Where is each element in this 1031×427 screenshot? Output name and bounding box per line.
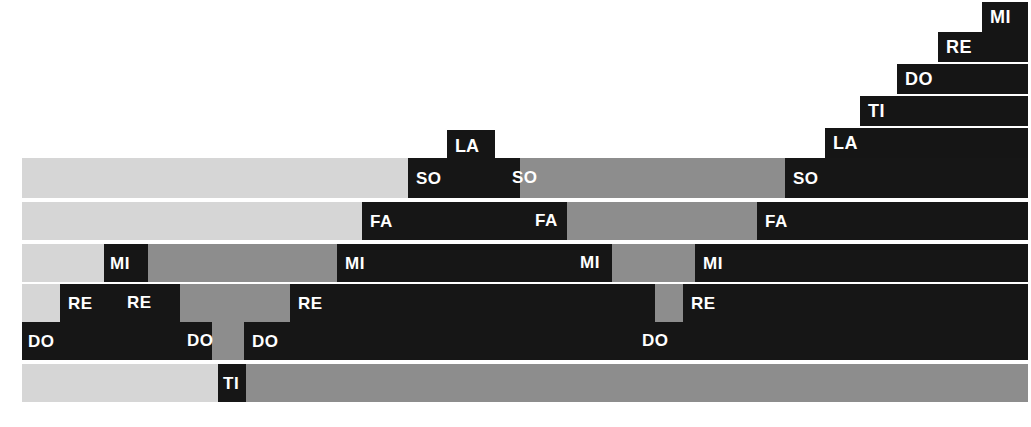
figure-canvas: on-nlt LATIDOREMI SOSOFAFAMIMIMIREREREDO… <box>0 0 1031 427</box>
bar-segment-dark: SO <box>785 158 1028 198</box>
bar-segment-dark: MI <box>104 244 148 282</box>
bar-segment-light <box>22 158 408 198</box>
segment-label: RE <box>127 294 152 311</box>
staircase-step-mi: MI <box>982 2 1028 32</box>
bar-row-re: RERERE <box>22 284 1028 322</box>
bar-segment-light <box>22 284 60 322</box>
segment-label: DO <box>28 333 55 350</box>
bar-segment-dark: FA <box>757 202 1028 240</box>
bar-segment-dark: DO <box>244 322 1028 360</box>
segment-label: FA <box>765 213 788 230</box>
staircase-step-label: RE <box>946 38 972 56</box>
bar-segment-mid <box>180 284 290 322</box>
bar-row-mi: MIMIMI <box>22 244 1028 282</box>
segment-label: SO <box>793 170 819 187</box>
bar-segment-dark: MI <box>695 244 1028 282</box>
staircase-step-label: MI <box>990 8 1011 26</box>
bar-segment-light <box>22 364 218 402</box>
bar-segment-mid <box>212 322 244 360</box>
segment-label: RE <box>691 295 716 312</box>
bar-segment-mid <box>520 158 785 198</box>
staircase-step-do: DO <box>897 64 1028 94</box>
staircase-step-label: TI <box>868 102 885 120</box>
bar-segment-mid <box>567 202 757 240</box>
staircase-step-re: RE <box>938 32 1028 62</box>
segment-label: SO <box>512 169 538 186</box>
segment-label: RE <box>68 295 93 312</box>
bar-row-do: DODO <box>22 322 1028 360</box>
bar-segment-light <box>22 244 104 282</box>
segment-label: SO <box>416 170 442 187</box>
segment-label: DO <box>252 333 279 350</box>
staircase-step-ti: TI <box>860 96 1028 126</box>
bar-row-ti: TI <box>22 364 1028 402</box>
riser-label: LA <box>455 137 479 155</box>
bar-segment-light <box>22 202 362 240</box>
segment-label: MI <box>345 255 365 272</box>
segment-label: TI <box>223 375 239 392</box>
segment-label: FA <box>370 213 393 230</box>
segment-label: MI <box>110 255 130 272</box>
segment-label: FA <box>535 212 558 229</box>
bar-segment-dark: DO <box>22 322 212 360</box>
bar-segment-dark: MI <box>337 244 612 282</box>
bar-segment-dark: TI <box>218 364 246 402</box>
bar-segment-mid <box>148 244 337 282</box>
segment-label: MI <box>703 255 723 272</box>
riser-la: LA <box>447 130 495 160</box>
bar-segment-mid <box>655 284 683 322</box>
bar-segment-mid <box>246 364 1028 402</box>
staircase-step-label: DO <box>905 70 933 88</box>
bar-row-fa: FAFA <box>22 202 1028 240</box>
segment-label: DO <box>642 332 669 349</box>
bar-segment-mid <box>612 244 695 282</box>
staircase-step-label: LA <box>833 134 858 152</box>
segment-label: RE <box>298 295 323 312</box>
staircase-step-la: LA <box>825 128 1028 158</box>
clipped-margin-text: on-nlt <box>0 0 16 427</box>
bar-segment-dark: RE <box>60 284 180 322</box>
bar-segment-dark: RE <box>683 284 1028 322</box>
bar-segment-dark: SO <box>408 158 520 198</box>
bar-segment-dark: RE <box>290 284 655 322</box>
segment-label: MI <box>580 254 600 271</box>
segment-label: DO <box>187 332 214 349</box>
